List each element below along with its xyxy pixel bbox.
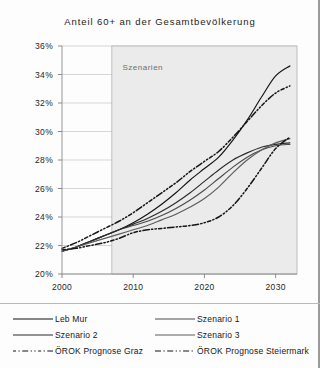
- legend-label: ÖROK Prognose Graz: [55, 346, 143, 356]
- scenario-shaded-region: [112, 46, 297, 274]
- y-axis-tick-labels: 36%34%32%30%28%26%24%22%20%: [35, 41, 62, 279]
- legend-swatch-dash-dot-icon: [13, 346, 53, 356]
- svg-text:28%: 28%: [35, 155, 53, 165]
- chart-annotations: Szenarien: [123, 63, 164, 72]
- chart-figure: Anteil 60+ an der Gesamtbevölkerung 36%3…: [0, 0, 320, 368]
- svg-text:34%: 34%: [35, 70, 53, 80]
- svg-text:2030: 2030: [266, 282, 286, 292]
- legend-item-oerok-prognose-steiermark[interactable]: ÖROK Prognose Steiermark: [152, 343, 320, 359]
- legend-item-szenario-1[interactable]: Szenario 1: [152, 311, 320, 327]
- legend-swatch-solid-icon: [13, 314, 53, 324]
- chart-plot-area: 36%34%32%30%28%26%24%22%20% 200020102020…: [0, 0, 320, 305]
- chart-legend: Leb Mur Szenario 1 Szenario 2 Szenario 3…: [0, 303, 320, 368]
- legend-row: Szenario 2 Szenario 3: [0, 327, 320, 343]
- svg-text:Szenarien: Szenarien: [123, 63, 164, 72]
- legend-row: Leb Mur Szenario 1: [0, 311, 320, 327]
- legend-label: Szenario 3: [197, 330, 240, 340]
- svg-text:2000: 2000: [52, 282, 72, 292]
- legend-item-szenario-2[interactable]: Szenario 2: [0, 327, 152, 343]
- legend-item-szenario-3[interactable]: Szenario 3: [152, 327, 320, 343]
- svg-text:32%: 32%: [35, 98, 53, 108]
- legend-item-leb-mur[interactable]: Leb Mur: [0, 311, 152, 327]
- legend-row: ÖROK Prognose Graz ÖROK Prognose Steierm…: [0, 343, 320, 359]
- x-axis-tick-labels: 2000201020202030: [52, 274, 286, 292]
- legend-swatch-solid-icon: [155, 314, 195, 324]
- legend-label: ÖROK Prognose Steiermark: [197, 346, 309, 356]
- svg-text:2010: 2010: [123, 282, 143, 292]
- svg-text:36%: 36%: [35, 41, 53, 51]
- svg-text:26%: 26%: [35, 184, 53, 194]
- svg-text:22%: 22%: [35, 241, 53, 251]
- legend-label: Leb Mur: [55, 314, 88, 324]
- svg-text:20%: 20%: [35, 269, 53, 279]
- svg-text:2020: 2020: [194, 282, 214, 292]
- legend-label: Szenario 1: [197, 314, 240, 324]
- legend-item-oerok-prognose-graz[interactable]: ÖROK Prognose Graz: [0, 343, 152, 359]
- legend-swatch-solid-icon: [155, 330, 195, 340]
- legend-label: Szenario 2: [55, 330, 98, 340]
- legend-swatch-dash-dot-icon: [155, 346, 195, 356]
- svg-text:24%: 24%: [35, 212, 53, 222]
- legend-swatch-solid-icon: [13, 330, 53, 340]
- svg-text:30%: 30%: [35, 127, 53, 137]
